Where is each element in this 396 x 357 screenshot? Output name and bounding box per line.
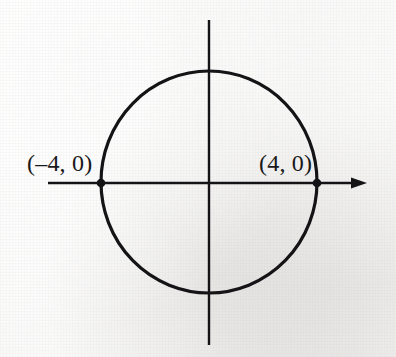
circle-graph-diagram (0, 0, 396, 357)
x-intercept-right-label: (4, 0) (259, 151, 312, 175)
x-intercept-left-dot (97, 179, 106, 188)
figure-canvas: (–4, 0) (4, 0) (0, 0, 396, 357)
x-axis-arrowhead (351, 178, 367, 189)
x-intercept-left-label: (–4, 0) (27, 151, 92, 175)
x-intercept-right-dot (313, 179, 322, 188)
